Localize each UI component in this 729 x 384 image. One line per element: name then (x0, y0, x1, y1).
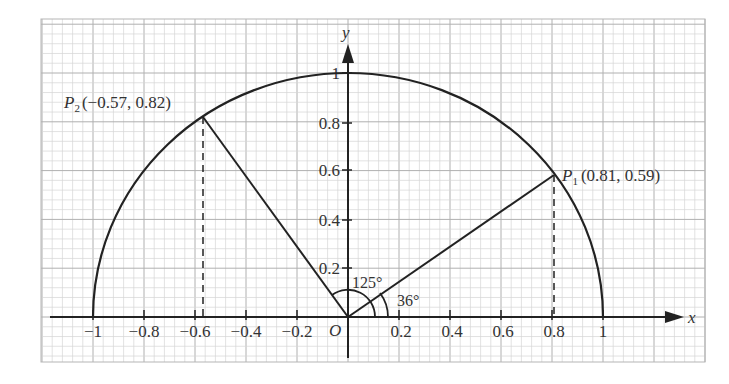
angle-label-36: 36° (397, 292, 419, 309)
angle-arc-36 (380, 293, 388, 317)
grid-frame (41, 19, 705, 362)
y-tick-label: 0.2 (319, 259, 340, 278)
p2-name: P (63, 93, 74, 112)
y-tick-label: 0.8 (319, 114, 340, 133)
p1-name: P (561, 166, 572, 185)
graph-paper-grid (41, 19, 705, 362)
p2-coordinates: (−0.57, 0.82) (82, 93, 171, 112)
x-tick-label: 0.6 (492, 322, 513, 341)
p1-coordinates: (0.81, 0.59) (581, 166, 660, 185)
x-tick-label: −1 (84, 322, 102, 341)
x-tick-label: −0.6 (180, 322, 211, 341)
x-tick-label: 0.8 (543, 322, 564, 341)
p2-subscript: 2 (74, 102, 80, 114)
unit-circle-diagram: x y O −1 −0.8 −0.6 −0.4 −0.2 0.2 0.4 0.6… (0, 0, 729, 384)
y-tick-label: 0.4 (319, 211, 341, 230)
origin-label: O (329, 321, 341, 340)
x-tick-label: 0.4 (441, 322, 463, 341)
x-axis-label: x (687, 308, 696, 327)
x-tick-label: 1 (599, 322, 608, 341)
x-tick-label: −0.4 (231, 322, 262, 341)
y-tick-label: 0.6 (319, 161, 340, 180)
x-tick-label: −0.2 (282, 322, 313, 341)
point-p2-label: P2(−0.57, 0.82) (63, 93, 171, 114)
y-axis-label: y (340, 23, 350, 42)
x-tick-label: 0.2 (390, 322, 411, 341)
diagram-canvas: x y O −1 −0.8 −0.6 −0.4 −0.2 0.2 0.4 0.6… (0, 0, 729, 384)
angle-label-125: 125° (352, 274, 382, 291)
point-p1-label: P1(0.81, 0.59) (561, 166, 660, 187)
p1-subscript: 1 (572, 175, 578, 187)
x-tick-label: −0.8 (129, 322, 160, 341)
